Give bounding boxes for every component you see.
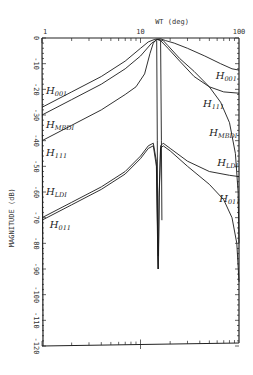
plot-frame [42, 38, 239, 346]
curve-label-h111: H111 [202, 98, 224, 111]
y-tick-label: 0 [32, 36, 40, 40]
curve-label-h001: H001 [45, 85, 67, 98]
curve-label-h011: H011 [49, 219, 71, 232]
y-tick-label: -20 [32, 83, 40, 96]
y-tick-label: -80 [32, 237, 40, 250]
curve-label-hmbdi: HMBDI [208, 127, 237, 140]
curve-labels: H001HMBDIH111H001H111HMBDIHLDIH011HLDIH0… [45, 70, 240, 232]
curve-label-hldi: HLDI [216, 157, 238, 170]
y-tick-label: -60 [32, 186, 40, 199]
x-tick-label: 10 [136, 28, 144, 36]
curve-label-hldi: HLDI [45, 186, 67, 199]
curve-label-h111: H111 [45, 147, 67, 160]
y-tick-label: -30 [32, 109, 40, 122]
series-h-001 [42, 39, 239, 108]
curve-label-h011: H011 [218, 193, 240, 206]
series-h-mbdi [42, 39, 239, 243]
y-tick-label: -10 [32, 57, 40, 70]
y-tick-label: -120 [32, 338, 40, 355]
series-group [42, 39, 239, 282]
series-notch-high [161, 41, 162, 221]
curve-label-hmbdi: HMBDI [45, 119, 74, 132]
x-axis-title: WT (deg) [155, 18, 189, 26]
series-h-011 [42, 146, 239, 282]
series-notch-low [157, 41, 158, 269]
x-tick-label: 1 [43, 28, 47, 36]
y-tick-label: -100 [32, 286, 40, 303]
y-tick-label: -110 [32, 312, 40, 329]
y-tick-label: -90 [32, 263, 40, 276]
y-tick-label: -50 [32, 160, 40, 173]
y-tick-label: -40 [32, 134, 40, 147]
y-axis-title: MAGNITUDE (dB) [8, 188, 16, 247]
y-tick-label: -70 [32, 211, 40, 224]
series-h-ldi [42, 143, 239, 256]
x-tick-label: 100 [233, 28, 246, 36]
bode-magnitude-chart: 0-10-20-30-40-50-60-70-80-90-100-110-120… [0, 0, 253, 375]
curve-label-h001: H001 [215, 70, 237, 83]
